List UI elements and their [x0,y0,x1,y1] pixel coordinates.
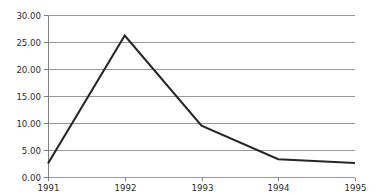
x-tick-label-1994: 1994 [268,183,290,193]
line-chart: 0.005.0010.0015.0020.0025.0030.001991199… [0,0,378,195]
y-gridlines [44,16,355,178]
y-tick-label-0.00: 0.00 [22,173,41,183]
y-tick-label-30.00: 30.00 [16,11,41,21]
x-tick-label-1995: 1995 [345,183,367,193]
series-line-0 [48,36,355,164]
y-tick-label-15.00: 15.00 [16,92,41,102]
y-tick-label-25.00: 25.00 [16,38,41,48]
x-tick-label-1991: 1991 [38,183,60,193]
x-tick-label-1992: 1992 [115,183,137,193]
y-tick-label-20.00: 20.00 [16,65,41,75]
x-tick-label-1993: 1993 [192,183,214,193]
y-tick-label-5.00: 5.00 [22,146,41,156]
y-tick-label-10.00: 10.00 [16,119,41,129]
chart-canvas: 0.005.0010.0015.0020.0025.0030.001991199… [0,0,378,195]
